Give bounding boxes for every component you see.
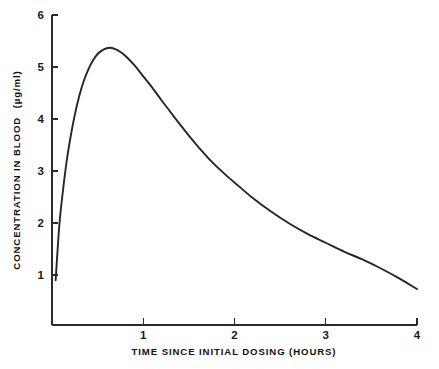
x-tick-label: 2 <box>231 329 237 341</box>
concentration-curve <box>56 48 417 289</box>
y-tick-label: 6 <box>38 9 44 21</box>
y-tick-label: 2 <box>38 217 44 229</box>
y-tick-label: 4 <box>38 113 45 125</box>
x-tick-label: 3 <box>323 329 329 341</box>
y-axis-title: CONCENTRATION IN BLOOD (µg/ml) <box>11 70 22 269</box>
pharmacokinetic-chart: 123456 1234 TIME SINCE INITIAL DOSING (H… <box>0 0 439 369</box>
x-tick-label: 1 <box>140 329 147 341</box>
y-tick-label: 5 <box>38 61 45 73</box>
y-tick-label: 1 <box>38 269 45 281</box>
x-tick-label-group: 1234 <box>140 329 421 341</box>
x-tick-label: 4 <box>414 329 421 341</box>
y-tick-group <box>52 15 58 275</box>
x-axis-title: TIME SINCE INITIAL DOSING (HOURS) <box>132 346 337 357</box>
y-tick-label-group: 123456 <box>38 9 45 281</box>
x-tick-group <box>143 318 417 325</box>
y-axis-title-units: (µg/ml) <box>11 70 22 108</box>
y-tick-label: 3 <box>38 165 44 177</box>
y-axis-title-main: CONCENTRATION IN BLOOD <box>11 117 22 270</box>
chart-canvas: 123456 1234 TIME SINCE INITIAL DOSING (H… <box>0 0 439 369</box>
